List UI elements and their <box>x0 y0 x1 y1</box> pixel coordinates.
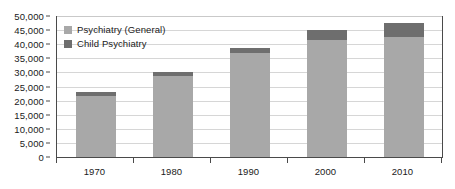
y-axis-tick-mark <box>46 86 50 87</box>
y-axis-tick-label: 5,000 <box>20 137 44 148</box>
x-axis: 19701980199020002010 <box>56 158 441 188</box>
legend-swatch-icon <box>64 40 72 48</box>
y-axis-tick-mark <box>46 157 50 158</box>
bar-stack[interactable] <box>76 92 116 157</box>
bar-stack[interactable] <box>230 48 270 157</box>
y-axis-tick-mark <box>46 142 50 143</box>
bar-slot-2010 <box>365 16 442 157</box>
x-axis-label-1970: 1970 <box>56 166 133 177</box>
x-axis-label-2010: 2010 <box>364 166 441 177</box>
legend-item-label: Child Psychiatry <box>77 38 147 49</box>
y-axis-tick-label: 10,000 <box>14 123 44 134</box>
bar-segment-psychiatry-general[interactable] <box>384 37 424 157</box>
y-axis-tick-label: 45,000 <box>14 25 44 36</box>
y-axis-tick-label: 30,000 <box>14 67 44 78</box>
x-axis-tick-mark <box>133 158 134 163</box>
y-axis-tick-mark <box>46 114 50 115</box>
bar-slot-2000 <box>288 16 365 157</box>
y-axis-tick-label: 50,000 <box>14 11 44 22</box>
bar-segment-psychiatry-general[interactable] <box>153 76 193 157</box>
x-axis-tick-mark <box>56 158 57 163</box>
bar-segment-psychiatry-general[interactable] <box>307 40 347 157</box>
x-axis-tick-mark <box>441 158 442 163</box>
chart-legend: Psychiatry (General)Child Psychiatry <box>64 24 166 49</box>
y-axis-tick-mark <box>46 44 50 45</box>
y-axis-tick-mark <box>46 30 50 31</box>
x-axis-tick-mark <box>210 158 211 163</box>
y-axis-tick-mark <box>46 100 50 101</box>
y-axis-tick-mark <box>46 72 50 73</box>
legend-item[interactable]: Child Psychiatry <box>64 38 166 49</box>
stacked-bar-chart: 50,00045,00040,00035,00030,00025,00020,0… <box>0 0 455 189</box>
x-axis-label-1990: 1990 <box>210 166 287 177</box>
y-axis: 50,00045,00040,00035,00030,00025,00020,0… <box>0 16 50 157</box>
x-axis-label-2000: 2000 <box>287 166 364 177</box>
bar-segment-psychiatry-general[interactable] <box>76 96 116 157</box>
bar-stack[interactable] <box>307 30 347 157</box>
bar-slot-1990 <box>211 16 288 157</box>
y-axis-tick-label: 20,000 <box>14 95 44 106</box>
bar-segment-psychiatry-general[interactable] <box>230 53 270 157</box>
x-axis-label-1980: 1980 <box>133 166 210 177</box>
bar-stack[interactable] <box>153 72 193 157</box>
y-axis-tick-label: 35,000 <box>14 53 44 64</box>
y-axis-tick-label: 0 <box>39 152 44 163</box>
x-axis-ticks <box>56 158 441 163</box>
y-axis-tick-label: 15,000 <box>14 109 44 120</box>
bar-segment-child-psychiatry[interactable] <box>307 30 347 40</box>
y-axis-tick-label: 40,000 <box>14 39 44 50</box>
bar-segment-child-psychiatry[interactable] <box>384 23 424 36</box>
y-axis-tick-label: 25,000 <box>14 81 44 92</box>
x-axis-tick-mark <box>364 158 365 163</box>
y-axis-tick-mark <box>46 16 50 17</box>
legend-swatch-icon <box>64 26 72 34</box>
y-axis-tick-mark <box>46 128 50 129</box>
x-axis-labels: 19701980199020002010 <box>56 166 441 177</box>
bar-stack[interactable] <box>384 23 424 157</box>
x-axis-tick-mark <box>287 158 288 163</box>
legend-item[interactable]: Psychiatry (General) <box>64 24 166 35</box>
legend-item-label: Psychiatry (General) <box>77 24 166 35</box>
y-axis-tick-mark <box>46 58 50 59</box>
